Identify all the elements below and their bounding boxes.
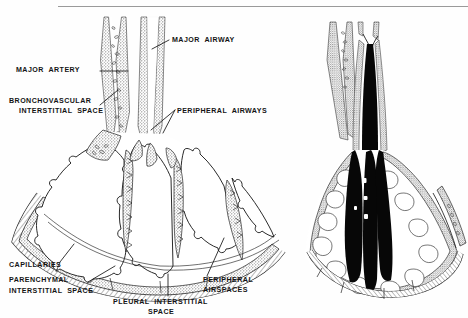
label-bronchovascular-line1: BRONCHOVASCULAR <box>9 97 91 106</box>
lung-anatomy-illustration <box>0 0 468 318</box>
left-panel-normal-lung <box>12 17 285 301</box>
label-capillaries: CAPILLARIES <box>9 261 61 270</box>
major-airway-tube <box>138 17 165 146</box>
label-peripheral-airspaces-line1: PERIPHERAL <box>203 276 253 285</box>
label-bronchovascular-line2: INTERSTITIAL SPACE <box>19 107 103 116</box>
figure-canvas: MAJOR AIRWAY MAJOR ARTERY BRONCHOVASCULA… <box>0 0 468 318</box>
edema-major-airway <box>353 22 387 152</box>
right-panel-edematous-lung <box>305 22 466 299</box>
edema-fluid-airspaces <box>345 150 393 292</box>
leader-peripheral-airways-b <box>163 110 175 133</box>
label-parenchymal-line2: INTERSTITIAL SPACE <box>9 287 93 296</box>
label-major-artery: MAJOR ARTERY <box>16 66 80 75</box>
label-major-airway: MAJOR AIRWAY <box>172 36 235 45</box>
major-artery-vessel <box>100 17 130 140</box>
label-parenchymal-line1: PARENCHYMAL <box>9 276 69 285</box>
fluid-column-main <box>362 44 378 150</box>
edema-artery-vessel <box>327 22 356 140</box>
label-peripheral-airways: PERIPHERAL AIRWAYS <box>177 107 267 116</box>
label-pleural-line2: SPACE <box>148 308 174 317</box>
label-pleural-line1: PLEURAL INTERSTITIAL <box>113 298 208 307</box>
label-peripheral-airspaces-line2: AIRSPACES <box>203 286 248 295</box>
